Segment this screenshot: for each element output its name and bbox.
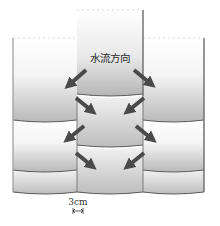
water-flow-direction-label: 水流方向 [90,52,130,64]
right-block-row2 [143,120,204,172]
left-block-row1 [13,38,77,122]
center-column [77,10,143,194]
right-column [143,38,204,194]
diagram-canvas: 水流方向 3cm [0,0,220,226]
dimension-marker-icon [73,208,83,214]
water-flow-diagram: 水流方向 3cm [0,0,220,226]
left-column [13,38,77,194]
right-block-row3 [143,170,204,194]
dimension-label: 3cm [68,197,88,207]
left-block-row2 [13,120,77,172]
left-block-row3 [13,170,77,194]
center-block-mid [77,96,143,147]
right-block-row1 [143,38,204,122]
center-block-bottom [77,147,143,194]
